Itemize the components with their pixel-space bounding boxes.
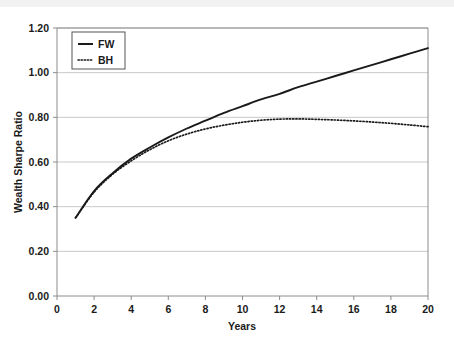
y-tick-label: 1.20	[29, 22, 50, 34]
series-line-bh	[76, 119, 428, 218]
x-tick-label: 8	[202, 303, 208, 315]
x-tick-label: 12	[274, 303, 286, 315]
y-tick-label: 1.00	[29, 66, 50, 78]
x-tick-label: 20	[422, 303, 434, 315]
x-tick-label: 14	[311, 303, 323, 315]
legend-label-fw: FW	[98, 38, 114, 50]
y-tick-label: 0.60	[29, 156, 50, 168]
x-axis-title: Years	[228, 320, 256, 332]
x-tick-label: 0	[54, 303, 60, 315]
x-tick-label: 2	[91, 303, 97, 315]
y-tick-label: 0.20	[29, 245, 50, 257]
x-tick-label: 6	[165, 303, 171, 315]
y-axis-ticks	[53, 28, 57, 296]
legend-label-bh: BH	[98, 54, 113, 66]
x-tick-label: 10	[237, 303, 249, 315]
series-line-fw	[76, 48, 428, 218]
chart-figure: 0.000.200.400.600.801.001.20 02468101214…	[0, 0, 454, 339]
y-tick-label: 0.40	[29, 200, 50, 212]
chart-legend: FW BH	[72, 32, 125, 69]
x-tick-label: 16	[348, 303, 360, 315]
top-band	[0, 0, 454, 7]
wealth-sharpe-ratio-line-chart: 0.000.200.400.600.801.001.20 02468101214…	[0, 0, 454, 339]
y-tick-label: 0.80	[29, 111, 50, 123]
y-tick-label: 0.00	[29, 290, 50, 302]
x-tick-label: 18	[385, 303, 397, 315]
y-axis-title: Wealth Sharpe Ratio	[12, 111, 24, 213]
data-series	[76, 48, 428, 218]
x-axis-ticks	[57, 296, 428, 300]
y-axis-tick-labels: 0.000.200.400.600.801.001.20	[29, 22, 50, 302]
x-tick-label: 4	[128, 303, 134, 315]
x-axis-tick-labels: 02468101214161820	[54, 303, 434, 315]
